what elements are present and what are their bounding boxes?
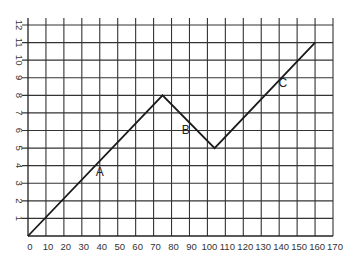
y-tick-label: 3	[14, 181, 25, 186]
x-tick-label: 90	[186, 241, 197, 252]
x-tick-label: 30	[79, 241, 90, 252]
x-tick-label: 50	[114, 241, 125, 252]
x-tick-label: 120	[237, 241, 253, 252]
x-tick-label: 0	[27, 241, 32, 252]
y-tick-labels: 123456789101112	[14, 20, 25, 221]
y-tick-label: 2	[14, 198, 25, 203]
x-tick-label: 130	[255, 241, 271, 252]
x-tick-label: 10	[43, 241, 54, 252]
x-tick-label: 110	[220, 241, 235, 252]
y-tick-label: 11	[14, 38, 25, 48]
y-tick-label: 5	[14, 145, 25, 150]
y-tick-label: 8	[14, 93, 25, 98]
x-tick-labels: 0102030405060708090100110120130140150160…	[27, 241, 343, 252]
x-tick-label: 150	[291, 241, 307, 252]
x-tick-label: 40	[96, 241, 107, 252]
grid-lines	[22, 18, 333, 236]
x-tick-label: 100	[201, 241, 217, 252]
x-tick-label: 60	[132, 241, 143, 252]
x-tick-label: 20	[61, 241, 72, 252]
segment-label: B	[182, 123, 190, 137]
y-tick-label: 1	[14, 216, 25, 221]
x-tick-label: 70	[150, 241, 161, 252]
y-tick-label: 9	[14, 75, 25, 80]
line-chart: 0102030405060708090100110120130140150160…	[0, 0, 356, 259]
x-tick-label: 170	[327, 241, 343, 252]
x-tick-label: 160	[309, 241, 325, 252]
axes	[28, 18, 333, 236]
x-tick-label: 80	[168, 241, 179, 252]
y-tick-label: 10	[14, 55, 25, 66]
y-tick-label: 4	[14, 163, 25, 168]
annotations: ABC	[96, 76, 288, 180]
x-tick-label: 140	[273, 241, 289, 252]
y-tick-label: 6	[14, 128, 25, 133]
segment-label: C	[278, 76, 287, 90]
segment-label: A	[96, 165, 104, 179]
y-tick-label: 12	[14, 20, 25, 31]
y-tick-label: 7	[14, 110, 25, 115]
